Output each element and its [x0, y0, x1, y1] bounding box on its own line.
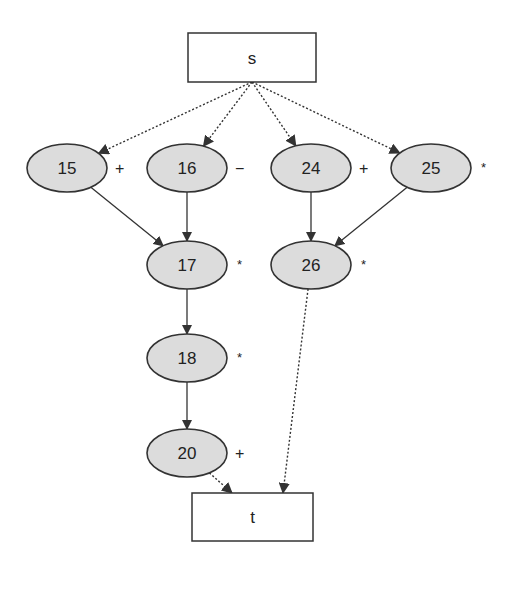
operator-label: + [235, 445, 244, 462]
node-label: 25 [422, 159, 441, 178]
operator-label: * [361, 257, 366, 272]
node-25: 25* [391, 144, 486, 192]
node-label: 20 [178, 444, 197, 463]
edge-s-to-24 [252, 82, 296, 146]
dependency-graph: st15+16−24+25*17*26*18*20+ [0, 0, 511, 601]
sink-node-t: t [192, 493, 313, 541]
node-label: 24 [302, 159, 321, 178]
operator-label: * [237, 350, 242, 365]
node-26: 26* [271, 241, 366, 289]
node-16: 16− [147, 144, 244, 192]
node-label: t [250, 508, 255, 527]
edge-26-to-t [283, 289, 308, 493]
edge-s-to-25 [252, 82, 400, 153]
node-17: 17* [147, 241, 242, 289]
node-24: 24+ [271, 144, 368, 192]
edge-15-to-17 [91, 187, 163, 245]
source-node-s: s [188, 33, 316, 82]
operator-label: + [115, 160, 124, 177]
node-15: 15+ [27, 144, 124, 192]
node-label: 15 [58, 159, 77, 178]
node-label: s [248, 49, 257, 68]
nodes: st15+16−24+25*17*26*18*20+ [27, 33, 486, 541]
node-18: 18* [147, 334, 242, 382]
operator-label: * [481, 160, 486, 175]
node-label: 16 [178, 159, 197, 178]
edge-s-to-16 [204, 82, 252, 146]
edge-25-to-26 [335, 187, 407, 245]
node-label: 26 [302, 256, 321, 275]
node-label: 17 [178, 256, 197, 275]
edge-s-to-15 [99, 82, 252, 153]
node-20: 20+ [147, 429, 244, 477]
edge-20-to-t [209, 473, 232, 493]
operator-label: * [237, 257, 242, 272]
operator-label: − [235, 160, 244, 177]
edges [91, 82, 407, 493]
node-label: 18 [178, 349, 197, 368]
operator-label: + [359, 160, 368, 177]
